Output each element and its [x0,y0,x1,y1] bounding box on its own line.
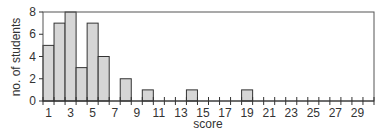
x-tick-label: 7 [111,106,118,120]
x-tick-label: 27 [329,106,343,120]
x-tick-label: 3 [67,106,74,120]
x-tick-label: 13 [174,106,188,120]
histogram-bar-score-4 [76,68,87,101]
histogram-bar-score-1 [43,45,54,101]
y-tick-label: 2 [29,72,36,86]
y-tick-label: 6 [29,27,36,41]
x-tick-label: 25 [307,106,321,120]
y-tick-label: 4 [29,50,36,64]
y-tick-label: 0 [29,94,36,108]
histogram-bar-score-19 [242,90,253,101]
histogram-bar-score-14 [186,90,197,101]
y-tick-label: 8 [29,5,36,19]
y-axis-title: no. of students [9,18,23,97]
histogram-bar-score-5 [87,23,98,101]
x-tick-label: 21 [263,106,277,120]
histogram-bar-score-10 [142,90,153,101]
histogram-bar-score-6 [98,57,109,102]
x-tick-label: 9 [133,106,140,120]
histogram-chart: 02468 1357911131517192123252729 score no… [0,0,391,134]
x-tick-label: 19 [240,106,254,120]
x-tick-label: 1 [45,106,52,120]
histogram-bar-score-3 [65,12,76,101]
x-tick-label: 29 [351,106,365,120]
histogram-bar-score-2 [54,23,65,101]
x-axis-title: score [193,117,223,131]
x-tick-label: 11 [153,106,166,120]
x-tick-label: 23 [285,106,299,120]
histogram-bar-score-8 [120,79,131,101]
bars-group [43,12,253,101]
x-tick-label: 5 [89,106,96,120]
y-axis: 02468 [29,5,43,108]
